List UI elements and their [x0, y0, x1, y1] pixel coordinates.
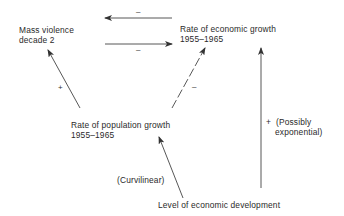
label-exponential-line2: exponential): [266, 127, 322, 137]
label-possibly-text: (Possibly: [276, 117, 311, 127]
sign-population-to-growth: –: [192, 83, 196, 91]
node-economic-growth-line2: 1955–1965: [180, 34, 276, 44]
node-mass-violence-line2: decade 2: [19, 35, 74, 45]
arrow-population-to-growth: [172, 48, 205, 108]
sign-population-to-violence: +: [58, 84, 63, 92]
node-economic-development: Level of economic development: [158, 200, 280, 210]
sign-development-to-growth: +: [266, 117, 271, 127]
node-economic-growth-line1: Rate of economic growth: [180, 24, 276, 34]
node-population-growth-line1: Rate of population growth: [71, 120, 170, 130]
label-possibly-line1: + (Possibly: [266, 117, 322, 127]
sign-violence-to-growth: –: [136, 46, 140, 54]
sign-growth-to-violence: –: [136, 8, 140, 16]
label-curvilinear: (Curvilinear): [117, 175, 165, 185]
node-economic-development-line1: Level of economic development: [158, 200, 280, 210]
node-population-growth: Rate of population growth 1955–1965: [71, 120, 170, 140]
arrow-development-to-population: [159, 137, 183, 198]
node-mass-violence-line1: Mass violence: [19, 25, 74, 35]
arrow-population-to-violence: [48, 50, 80, 108]
node-mass-violence: Mass violence decade 2: [19, 25, 74, 45]
node-economic-growth: Rate of economic growth 1955–1965: [180, 24, 276, 44]
node-population-growth-line2: 1955–1965: [71, 130, 170, 140]
label-possibly-exponential: + (Possibly exponential): [266, 117, 322, 137]
